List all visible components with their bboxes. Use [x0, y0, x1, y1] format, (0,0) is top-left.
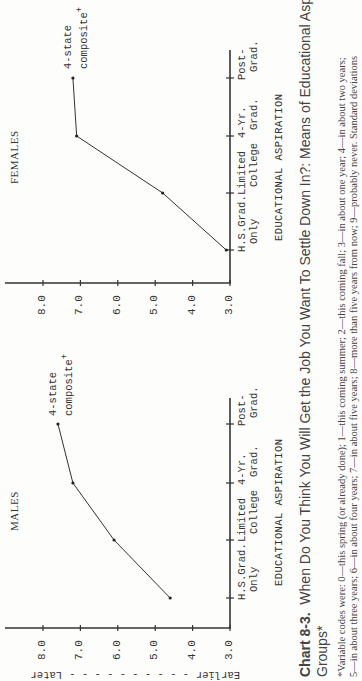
rotated-figure-page: MALES 4-state composite+ EDUCATIONAL ASP…	[0, 0, 362, 681]
series-line	[58, 424, 170, 598]
value-tick-label: 4.0	[186, 640, 198, 660]
data-point	[71, 481, 74, 484]
x-axis-title-males: EDUCATIONAL ASPIRATION	[273, 439, 285, 586]
value-tick-label: 3.0	[223, 295, 235, 315]
value-tick-label: 7.0	[73, 640, 85, 660]
value-tick-label: 8.0	[36, 295, 48, 315]
value-tick-label: 5.0	[148, 295, 160, 315]
category-tick-label: H.S.Grad.Only	[236, 195, 260, 252]
category-tick-label: LimitedCollege	[236, 143, 260, 195]
composite-annotation-females: 4-state composite+	[62, 7, 90, 69]
category-tick-label: Post-Grad.	[236, 40, 260, 80]
earlier-label: Earlier	[196, 669, 240, 681]
category-tick-label: LimitedCollege	[236, 490, 260, 542]
series-line	[73, 78, 226, 250]
data-point	[169, 596, 172, 599]
composite-annotation-males: 4-state composite+	[47, 354, 75, 416]
data-point	[75, 134, 78, 137]
category-tick-label: Post-Grad.	[236, 386, 260, 426]
category-tick-label: 4-Yr.Grad.	[236, 98, 260, 138]
value-tick-label: 8.0	[36, 640, 48, 660]
category-tick-label: 4-Yr.Grad.	[236, 445, 260, 485]
later-label: Later	[30, 669, 62, 681]
panel-title-males: MALES	[8, 491, 20, 531]
footnote-line-2: 5—in about three years; 6—in about four …	[348, 56, 360, 677]
figure-caption-line2: Groups*	[314, 626, 331, 677]
value-tick-label: 6.0	[111, 295, 123, 315]
panel-title-females: FEMALES	[8, 130, 20, 184]
category-tick-label: H.S.Grad.Only	[236, 543, 260, 600]
value-tick-label: 7.0	[73, 295, 85, 315]
data-point	[71, 76, 74, 79]
value-tick-label: 5.0	[148, 640, 160, 660]
data-point	[56, 422, 59, 425]
figure-caption: Chart 8-3. When Do You Think You Will Ge…	[297, 0, 314, 677]
direction-dashes: - - - - - - - - - -	[69, 669, 189, 681]
footnote-line-1: *Variable codes were: 0—this spring (or …	[336, 57, 348, 677]
x-axis-title-females: EDUCATIONAL ASPIRATION	[273, 94, 285, 241]
value-tick-label: 3.0	[223, 640, 235, 660]
value-tick-label: 4.0	[186, 295, 198, 315]
data-point	[225, 248, 228, 251]
data-point	[161, 191, 164, 194]
value-tick-label: 6.0	[111, 640, 123, 660]
direction-axis: Earlier- - - - - - - - - -Later	[30, 669, 240, 681]
data-point	[112, 538, 115, 541]
